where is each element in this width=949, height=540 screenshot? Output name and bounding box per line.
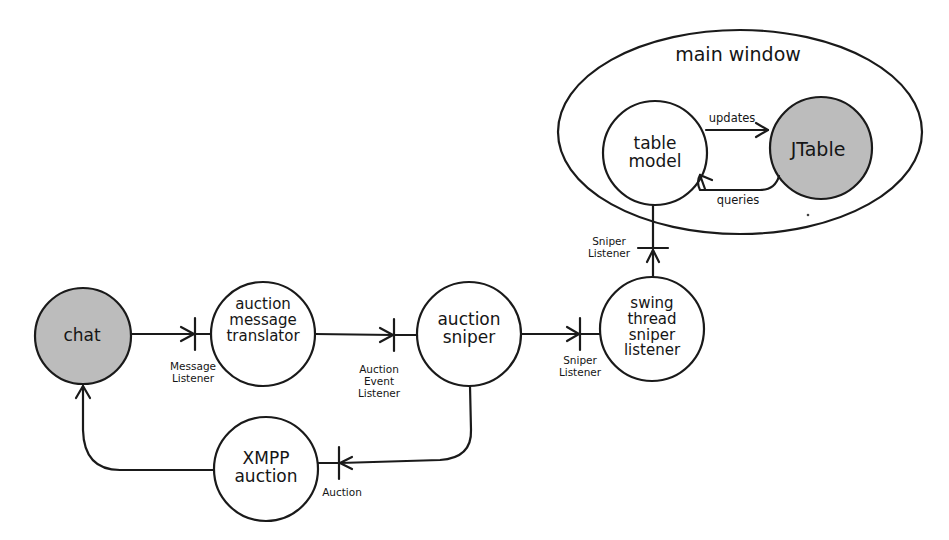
auction-event-listener-label: Auction Event Listener <box>358 363 400 399</box>
xmpp-to-chat-edge <box>83 386 214 470</box>
sniper-listener-label-1: Sniper Listener <box>559 354 601 378</box>
translator-to-sniper-edge <box>315 334 393 335</box>
jtable-label: JTable <box>791 140 846 160</box>
queries-label: queries <box>717 194 760 206</box>
chat-label: chat <box>63 327 100 345</box>
translator-label: auction message translator <box>226 297 299 344</box>
updates-label: updates <box>709 112 756 124</box>
message-listener-label: Message Listener <box>170 360 216 384</box>
sniper-label: auction sniper <box>437 311 500 347</box>
table-model-label: table model <box>629 135 682 171</box>
diagram-canvas <box>0 0 949 540</box>
auction-interface-label: Auction <box>322 486 362 498</box>
queries-edge <box>698 175 779 190</box>
xmpp-label: XMPP auction <box>234 450 297 486</box>
main-window-label: main window <box>675 45 801 65</box>
swing-label: swing thread sniper listener <box>624 296 680 359</box>
sniper-listener-label-2: Sniper Listener <box>588 235 630 259</box>
